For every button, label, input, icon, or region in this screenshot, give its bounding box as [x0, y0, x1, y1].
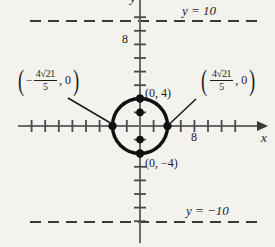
point-upper-interior [136, 109, 144, 117]
left-label-leader-line [68, 98, 111, 123]
y-axis-label: y [130, 0, 136, 4]
graph-figure [0, 0, 275, 247]
left-fraction-numerator: 4√21 [34, 68, 57, 81]
left-fraction-denominator: 5 [43, 81, 48, 93]
right-open-paren: ( [201, 68, 207, 91]
right-intersection-coordinate-label: ( 4√21 5 , 0 ) [199, 68, 257, 92]
left-close-paren: ) [73, 68, 79, 91]
left-minus-sign: − [26, 74, 33, 86]
point-label-top: (0, 4) [145, 87, 171, 99]
point-bottom [136, 149, 144, 157]
left-open-paren: ( [18, 68, 24, 91]
right-fraction-denominator: 5 [219, 81, 224, 93]
point-right-intersection [163, 122, 171, 130]
right-suffix: , 0 [235, 74, 247, 86]
left-fraction: 4√21 5 [34, 68, 57, 92]
left-intersection-coordinate-label: ( − 4√21 5 , 0 ) [16, 68, 81, 92]
x-axis-label: x [261, 131, 267, 144]
right-close-paren: ) [249, 68, 255, 91]
point-top [136, 94, 144, 102]
x-axis-tick-label-8: 8 [191, 131, 197, 143]
point-lower-interior [136, 136, 144, 144]
point-label-bottom: (0, −4) [145, 157, 178, 169]
point-left-intersection [108, 122, 116, 130]
right-fraction: 4√21 5 [210, 68, 233, 92]
lower-asymptote-label: y = −10 [186, 204, 229, 217]
right-fraction-numerator: 4√21 [210, 68, 233, 81]
right-label-leader-line [171, 99, 197, 123]
upper-asymptote-label: y = 10 [182, 4, 216, 17]
y-axis-tick-label-8: 8 [122, 33, 128, 45]
left-suffix: , 0 [59, 74, 71, 86]
